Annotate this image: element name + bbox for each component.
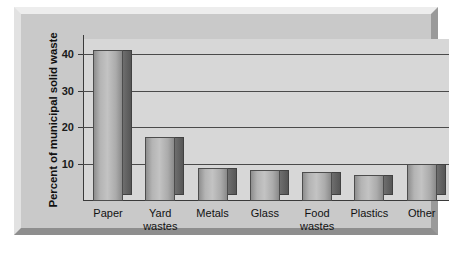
bar-food-wastes: [302, 172, 332, 201]
bar-plastics: [354, 175, 384, 201]
y-axis-title-text: Percent of municipal solid waste: [47, 32, 59, 207]
gridline-20: [83, 127, 449, 128]
bar-front-face: [198, 168, 228, 201]
y-tick-label-30: 30: [62, 85, 74, 97]
bar-front-face: [250, 170, 280, 201]
y-tick-mark-20: [78, 127, 83, 128]
category-label-food-wastes: Food wastes: [290, 207, 344, 233]
y-tick-mark-30: [78, 91, 83, 92]
y-tick-label-20: 20: [62, 121, 74, 133]
bar-metals: [198, 168, 228, 201]
bar-front-face: [145, 137, 175, 201]
plot-area: 10203040: [83, 39, 449, 201]
bar-paper: [93, 50, 123, 201]
bar-glass: [250, 170, 280, 201]
bar-side-face: [332, 172, 341, 195]
bar-side-face: [280, 170, 289, 195]
gridline-40: [83, 54, 449, 55]
bar-side-face: [228, 168, 237, 195]
bar-side-face: [175, 137, 184, 195]
category-label-plastics: Plastics: [342, 207, 396, 220]
bar-side-face: [437, 164, 446, 195]
bar-front-face: [354, 175, 384, 201]
y-tick-label-10: 10: [62, 158, 74, 170]
bar-other: [407, 164, 437, 201]
y-tick-label-40: 40: [62, 48, 74, 60]
gridline-10: [83, 164, 449, 165]
bar-side-face: [384, 175, 393, 195]
y-axis-title: Percent of municipal solid waste: [43, 34, 63, 206]
category-label-paper: Paper: [81, 207, 135, 220]
category-label-glass: Glass: [238, 207, 292, 220]
bar-side-face: [123, 50, 132, 195]
bar-front-face: [93, 50, 123, 201]
bar-front-face: [302, 172, 332, 201]
bar-yard-wastes: [145, 137, 175, 201]
figure-container: Percent of municipal solid waste 1020304…: [0, 0, 458, 254]
category-label-yard-wastes: Yard wastes: [133, 207, 187, 233]
y-tick-mark-40: [78, 54, 83, 55]
y-tick-mark-10: [78, 164, 83, 165]
bar-front-face: [407, 164, 437, 201]
panel-inner-surface: Percent of municipal solid waste 1020304…: [21, 14, 431, 228]
category-label-metals: Metals: [186, 207, 240, 220]
category-label-other: Other: [395, 207, 449, 220]
y-axis-line: [83, 35, 84, 201]
gridline-30: [83, 91, 449, 92]
beveled-panel-frame: Percent of municipal solid waste 1020304…: [14, 7, 438, 235]
